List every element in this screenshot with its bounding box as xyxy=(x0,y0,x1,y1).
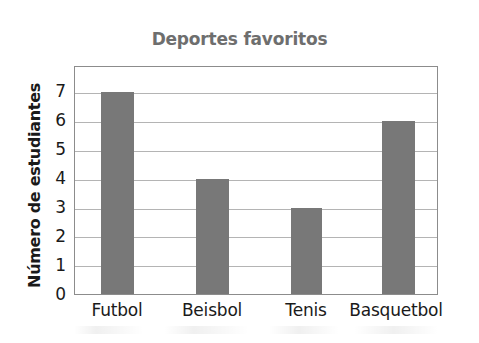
x-tick-label-futbol: Futbol xyxy=(71,300,163,320)
scan-shadow-artifact xyxy=(74,326,438,334)
x-axis-tick-labels: Futbol Beisbol Tenis Basquetbol xyxy=(74,300,438,328)
bar-basquetbol[interactable] xyxy=(382,121,415,294)
y-tick-label-2: 2 xyxy=(46,228,66,245)
bar-beisbol[interactable] xyxy=(196,179,229,294)
y-tick-label-1: 1 xyxy=(46,257,66,274)
bar-tenis[interactable] xyxy=(291,208,322,294)
x-tick-label-beisbol: Beisbol xyxy=(166,300,258,320)
plot-area xyxy=(74,66,438,295)
chart-page: Deportes favoritos Número de estudiantes… xyxy=(0,0,479,343)
x-tick-label-basquetbol: Basquetbol xyxy=(346,300,446,320)
y-axis-tick-labels: 0 1 2 3 4 5 6 7 xyxy=(0,0,70,343)
y-tick-label-3: 3 xyxy=(46,199,66,216)
bar-futbol[interactable] xyxy=(101,92,134,294)
y-tick-label-7: 7 xyxy=(46,83,66,100)
y-tick-label-6: 6 xyxy=(46,112,66,129)
y-tick-label-0: 0 xyxy=(46,286,66,303)
y-tick-label-4: 4 xyxy=(46,170,66,187)
chart-title: Deportes favoritos xyxy=(0,29,479,49)
y-tick-label-5: 5 xyxy=(46,141,66,158)
x-tick-label-tenis: Tenis xyxy=(260,300,352,320)
